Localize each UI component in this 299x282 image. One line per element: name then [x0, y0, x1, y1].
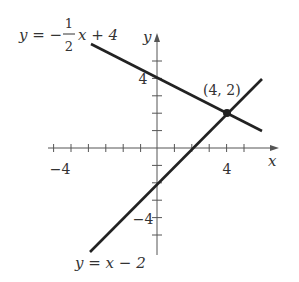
y-axis-label: y: [142, 28, 152, 46]
equation-label-line-2: y = x − 2: [74, 254, 146, 272]
equation-1-prefix: y = −: [18, 26, 62, 44]
y-axis: y 4 −4: [133, 28, 162, 255]
intersection-point: [223, 109, 231, 117]
x-tick-label-neg4: −4: [50, 161, 71, 177]
x-axis: x −4 4: [48, 144, 279, 177]
equation-1-denominator: 2: [65, 39, 73, 54]
x-axis-label: x: [268, 152, 277, 170]
y-axis-arrow-icon: [154, 33, 160, 42]
intersection-label: (4, 2): [203, 82, 241, 98]
equation-1-suffix: x + 4: [78, 26, 118, 44]
equation-1-numerator: 1: [65, 16, 73, 31]
equation-label-line-1: y = − 1 2 x + 4: [18, 16, 118, 54]
y-tick-label-neg4: −4: [133, 211, 154, 227]
x-tick-label-4: 4: [223, 161, 232, 177]
x-axis-arrow-icon: [270, 145, 279, 151]
line-y-x-minus-2: [90, 79, 262, 252]
coordinate-graph: x −4 4 y 4 −4 (4, 2) y = − 1 2: [0, 0, 299, 282]
